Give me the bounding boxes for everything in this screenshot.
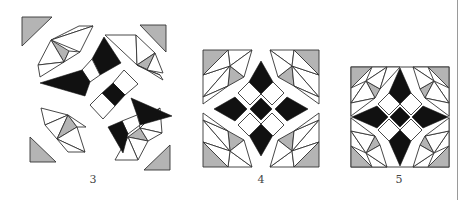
fig3-corner-triangles — [22, 17, 170, 170]
figure-3-label: 3 — [90, 173, 97, 186]
figure-3-diagram — [20, 15, 175, 172]
fig3-fan-bottom-left — [41, 108, 86, 152]
figure-4-diagram — [202, 49, 320, 168]
figure-5-diagram — [350, 66, 450, 168]
figure-4-label: 4 — [258, 173, 265, 186]
figure-5-label: 5 — [396, 173, 403, 186]
page-divider-line — [457, 0, 458, 200]
